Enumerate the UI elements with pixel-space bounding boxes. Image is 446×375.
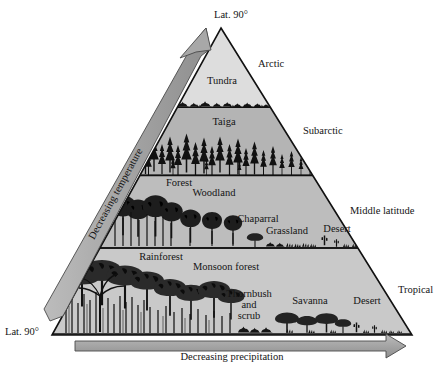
biome-label-rainforest: Rainforest [139,251,183,262]
zone-label-tropical: Tropical [398,284,433,295]
biome-label-tundra: Tundra [207,75,237,86]
biome-label-thornbush-and: and [241,299,256,310]
biome-label-monsoon-forest: Monsoon forest [193,261,259,272]
biome-pyramid-figure: Lat. 90° Lat. 90° Decreasing temperature… [0,0,446,375]
zone-label-subarctic: Subarctic [303,125,343,136]
biome-label-desert-middle-latitude: Desert [323,223,350,234]
zone-label-arctic: Arctic [258,58,284,69]
band-arctic [0,28,446,108]
biome-label-thornbush: Thornbush [226,288,272,299]
base-left-latitude-label: Lat. 90° [5,326,39,337]
biome-label-savanna: Savanna [292,295,328,306]
biome-label-thornbush-scrub: scrub [238,310,261,321]
biome-label-desert-tropical: Desert [353,295,380,306]
biome-label-taiga: Taiga [212,116,235,127]
biome-label-chaparral: Chaparral [237,213,278,224]
apex-latitude-label: Lat. 90° [214,9,248,20]
biome-label-woodland: Woodland [193,187,236,198]
biome-label-grassland: Grassland [266,225,308,236]
biome-label-forest: Forest [166,177,192,188]
decreasing-precipitation-label: Decreasing precipitation [181,351,284,362]
zone-label-middle-latitude: Middle latitude [350,205,414,216]
